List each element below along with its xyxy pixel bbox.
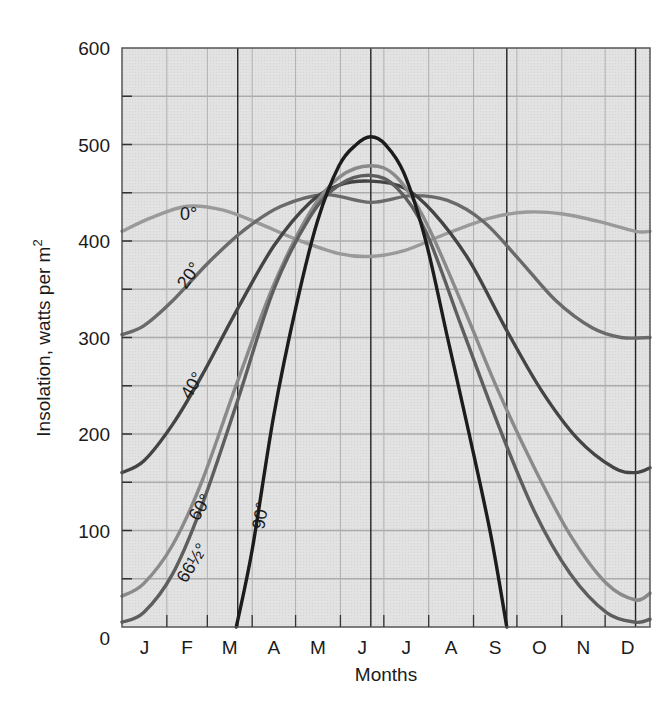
x-tick-label: J: [402, 637, 412, 658]
y-tick-label: 300: [78, 328, 110, 349]
x-tick-label: A: [445, 637, 458, 658]
label-0deg: 0°: [180, 204, 197, 224]
y-tick-label: 100: [78, 521, 110, 542]
x-tick-label: N: [577, 637, 591, 658]
x-tick-label: S: [489, 637, 502, 658]
y-tick-label: 600: [78, 38, 110, 59]
y-tick-label: 0: [99, 628, 110, 649]
y-axis-title: Insolation, watts per m2: [30, 239, 54, 436]
x-tick-label: J: [140, 637, 150, 658]
y-tick-label: 500: [78, 135, 110, 156]
x-tick-label: M: [222, 637, 238, 658]
y-tick-label: 200: [78, 424, 110, 445]
x-tick-label: J: [357, 637, 367, 658]
insolation-chart: 0100200300400500600 JFMAMJJASOND Months …: [0, 0, 672, 707]
x-tick-label: O: [532, 637, 547, 658]
x-tick-label: M: [310, 637, 326, 658]
x-tick-label: F: [181, 637, 193, 658]
x-tick-label: A: [268, 637, 281, 658]
y-tick-label: 400: [78, 231, 110, 252]
x-axis-title: Months: [355, 664, 417, 685]
x-tick-label: D: [621, 637, 635, 658]
